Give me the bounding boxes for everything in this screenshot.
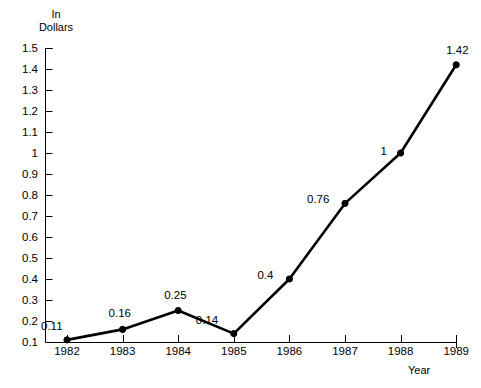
data-point-marker	[120, 326, 126, 332]
data-point-marker	[175, 307, 181, 313]
data-point-marker	[286, 276, 292, 282]
data-point-marker	[398, 150, 404, 156]
data-line	[67, 65, 456, 340]
data-point-marker	[342, 200, 348, 206]
line-chart: In Dollars Year 1.51.41.31.21.110.90.80.…	[0, 0, 481, 388]
data-point-marker	[453, 62, 459, 68]
plot-area	[0, 0, 481, 388]
data-point-marker	[231, 331, 237, 337]
data-point-marker	[64, 337, 70, 343]
